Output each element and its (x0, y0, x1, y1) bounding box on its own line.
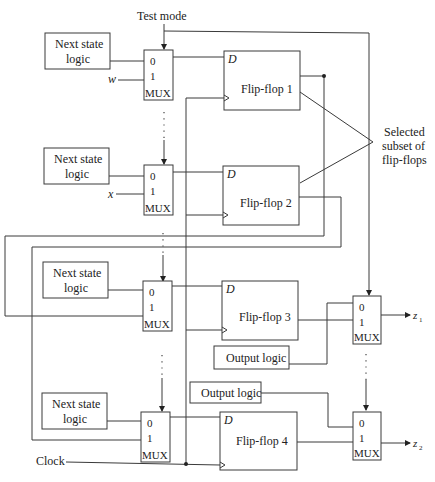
svg-text:MUX: MUX (145, 87, 171, 99)
svg-text:logic: logic (64, 281, 88, 295)
svg-text:0: 0 (147, 417, 153, 429)
svg-text:1: 1 (359, 316, 365, 328)
svg-text:Flip-flop 4: Flip-flop 4 (236, 434, 288, 448)
svg-text:0: 0 (359, 301, 365, 313)
svg-text:Next state: Next state (54, 152, 102, 166)
svg-text:Output logic: Output logic (226, 351, 286, 365)
svg-text:Flip-flop 2: Flip-flop 2 (240, 196, 292, 210)
svg-text:logic: logic (63, 412, 87, 426)
input-w: w (108, 72, 116, 86)
svg-text:Next state: Next state (55, 37, 103, 51)
svg-text:flip-flops: flip-flops (382, 153, 427, 167)
svg-text:0: 0 (149, 286, 155, 298)
svg-text:Flip-flop 1: Flip-flop 1 (241, 82, 293, 96)
svg-text:1: 1 (149, 301, 155, 313)
svg-text:MUX: MUX (144, 318, 170, 330)
svg-text:0: 0 (150, 170, 156, 182)
output-z1: z (412, 309, 418, 321)
clock-label: Clock (36, 454, 65, 468)
svg-text:MUX: MUX (145, 202, 171, 214)
svg-text:D: D (223, 413, 233, 427)
svg-text:logic: logic (65, 167, 89, 181)
svg-text:logic: logic (66, 52, 90, 66)
svg-text:1: 1 (419, 316, 423, 324)
svg-text:Flip-flop 3: Flip-flop 3 (239, 310, 291, 324)
svg-text:Output logic: Output logic (201, 386, 261, 400)
test-mode-label: Test mode (137, 9, 186, 23)
svg-text:1: 1 (147, 432, 153, 444)
output-z2: z (412, 437, 418, 449)
input-x: x (107, 187, 114, 201)
svg-text:2: 2 (419, 444, 423, 452)
svg-text:MUX: MUX (354, 447, 380, 459)
scan-chain-diagram: Test mode Next state logic w 0 1 MUX D F… (0, 0, 435, 482)
svg-text:MUX: MUX (354, 331, 380, 343)
svg-text:0: 0 (359, 417, 365, 429)
svg-text:1: 1 (150, 185, 156, 197)
svg-text:D: D (226, 167, 236, 181)
svg-text:D: D (225, 282, 235, 296)
svg-text:Next state: Next state (52, 397, 100, 411)
svg-text:Selected: Selected (384, 125, 425, 139)
svg-text:D: D (227, 52, 237, 66)
svg-text:MUX: MUX (142, 449, 168, 461)
svg-text:1: 1 (359, 432, 365, 444)
svg-text:1: 1 (150, 70, 156, 82)
annotation-bracket (300, 92, 373, 183)
clock-trunk (186, 98, 224, 465)
svg-text:Next state: Next state (53, 266, 101, 280)
svg-text:subset of: subset of (382, 139, 425, 153)
svg-text:0: 0 (150, 55, 156, 67)
